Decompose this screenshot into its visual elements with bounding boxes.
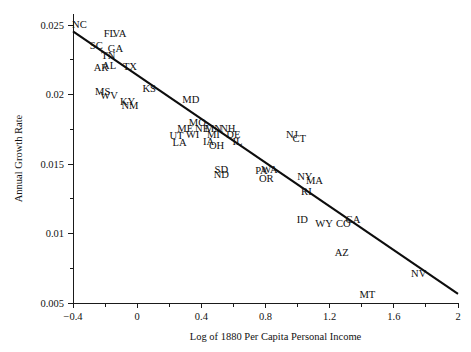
data-label-nc: NC <box>72 19 87 30</box>
data-label-wy: WY <box>315 218 333 229</box>
x-tick-label-1: 0 <box>135 311 140 322</box>
data-label-ri: RI <box>301 186 312 197</box>
data-label-ks: KS <box>142 83 156 94</box>
x-tick-label-2: 0.4 <box>195 311 209 322</box>
plot-canvas: 0.0050.010.0150.020.025 −0.400.40.81.21.… <box>0 0 471 352</box>
x-axis-major-ticks <box>73 303 458 308</box>
data-label-or: OR <box>259 173 275 184</box>
data-label-ar: AR <box>94 62 110 73</box>
data-label-oh: OH <box>209 140 225 151</box>
y-tick-label-3: 0.02 <box>46 89 64 100</box>
y-axis-tick-labels: 0.0050.010.0150.020.025 <box>40 20 64 309</box>
data-label-il: IL <box>232 136 242 147</box>
y-tick-label-4: 0.025 <box>40 20 64 31</box>
data-label-va: VA <box>113 28 127 39</box>
data-label-la: LA <box>173 137 187 148</box>
scatter-plot-figure: 0.0050.010.0150.020.025 −0.400.40.81.21.… <box>0 0 471 352</box>
y-tick-label-0: 0.005 <box>40 298 64 309</box>
data-label-nv: NV <box>411 268 427 279</box>
y-tick-label-1: 0.01 <box>46 228 64 239</box>
data-label-ca: CA <box>346 214 361 225</box>
data-point-labels: NCFLVASCGATNALARTXMSWVKSKYNMMDMOMENEMNNH… <box>72 19 427 300</box>
x-tick-label-4: 1.2 <box>323 311 336 322</box>
y-axis-major-ticks <box>68 25 73 303</box>
x-axis-tick-labels: −0.400.40.81.21.62 <box>63 311 460 322</box>
x-tick-label-3: 0.8 <box>259 311 272 322</box>
data-label-tx: TX <box>123 61 137 72</box>
data-label-mt: MT <box>359 289 375 300</box>
x-axis-title: Log of 1880 Per Capita Personal Income <box>190 331 362 342</box>
data-label-id: ID <box>297 214 309 225</box>
data-label-ct: CT <box>292 133 306 144</box>
data-label-nd: ND <box>214 169 230 180</box>
data-label-nm: NM <box>121 100 139 111</box>
data-label-wv: WV <box>100 90 118 101</box>
x-tick-label-5: 1.6 <box>387 311 400 322</box>
y-tick-label-2: 0.015 <box>40 159 64 170</box>
data-label-az: AZ <box>335 247 349 258</box>
x-tick-label-0: −0.4 <box>63 311 83 322</box>
data-label-wi: WI <box>186 129 200 140</box>
data-label-md: MD <box>182 94 199 105</box>
x-tick-label-6: 2 <box>455 311 460 322</box>
y-axis-title: Annual Growth Rate <box>13 114 24 202</box>
data-label-ma: MA <box>306 175 323 186</box>
